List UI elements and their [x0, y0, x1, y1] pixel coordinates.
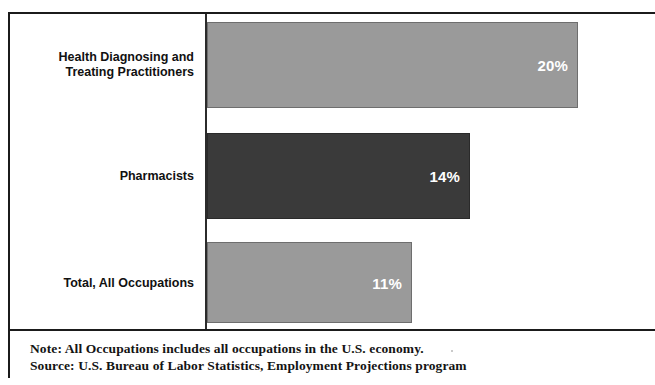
- bar-row: Health Diagnosing and Treating Practitio…: [8, 22, 655, 108]
- bar-2[interactable]: 11%: [207, 242, 412, 323]
- bar-row: Total, All Occupations 11%: [8, 242, 655, 323]
- source-text: Source: U.S. Bureau of Labor Statistics,…: [30, 357, 467, 374]
- bar-chart-plot-area: Health Diagnosing and Treating Practitio…: [8, 14, 655, 330]
- figure-footnotes: Note: All Occupations includes all occup…: [30, 340, 467, 374]
- bar-value-2: 11%: [372, 274, 402, 291]
- scan-artifact: [451, 350, 453, 352]
- category-label-2: Total, All Occupations: [63, 275, 194, 290]
- bar-0[interactable]: 20%: [207, 22, 578, 108]
- bar-1[interactable]: 14%: [207, 133, 470, 219]
- bar-row: Pharmacists 14%: [8, 133, 655, 219]
- plot-footer-separator: [8, 329, 655, 331]
- category-label-0: Health Diagnosing and Treating Practitio…: [59, 50, 194, 80]
- note-text: Note: All Occupations includes all occup…: [30, 340, 467, 357]
- bar-value-0: 20%: [537, 57, 568, 74]
- bar-value-1: 14%: [429, 168, 460, 185]
- category-label-1: Pharmacists: [120, 169, 194, 184]
